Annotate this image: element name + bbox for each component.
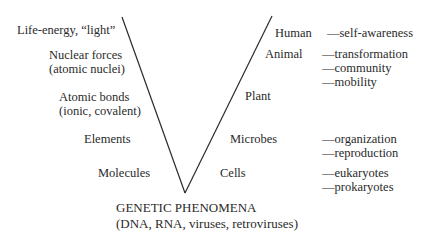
trait-prokaryotes: —prokaryotes [322,180,394,194]
label-ionic-covalent: (ionic, covalent) [59,104,141,118]
trait-self-awareness: —self-awareness [327,26,413,40]
trait-organization: —organization [322,132,397,146]
label-nuclear-forces: Nuclear forces [49,48,122,62]
label-molecules: Molecules [98,166,150,180]
label-animal: Animal [265,47,303,61]
label-life-energy: Life-energy, “light” [17,23,115,37]
label-atomic-nuclei: (atomic nuclei) [49,62,125,76]
label-atomic-bonds: Atomic bonds [59,90,129,104]
base-title: GENETIC PHENOMENA [116,200,256,216]
label-plant: Plant [245,89,271,103]
trait-community: —community [322,61,391,75]
label-microbes: Microbes [230,132,277,146]
trait-reproduction: —reproduction [322,146,398,160]
label-cells: Cells [220,166,246,180]
label-human: Human [275,26,312,40]
base-subtitle: (DNA, RNA, viruses, retroviruses) [116,216,298,232]
trait-mobility: —mobility [322,75,377,89]
trait-eukaryotes: —eukaryotes [322,166,389,180]
label-elements: Elements [84,132,131,146]
trait-transformation: —transformation [322,47,408,61]
